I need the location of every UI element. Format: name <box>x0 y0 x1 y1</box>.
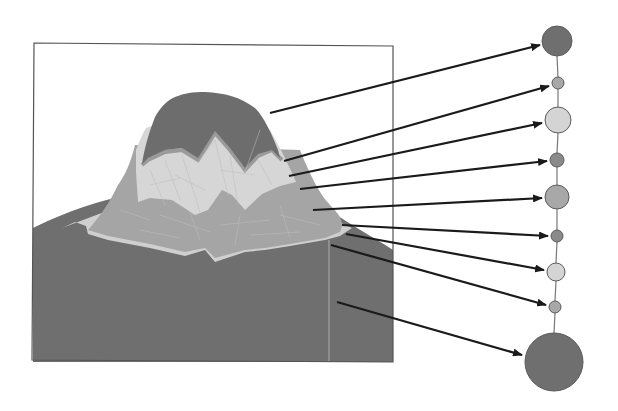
tree-node-n3 <box>545 107 571 133</box>
tree-node-n5 <box>545 185 569 209</box>
tree-edge <box>557 133 558 153</box>
terrain-level-tree-diagram <box>0 0 618 411</box>
tree-node-n8 <box>549 301 561 313</box>
tree-node-n7 <box>547 263 565 281</box>
terrain-panel <box>33 43 393 362</box>
level-tree-nodes <box>525 26 583 391</box>
tree-node-n9 <box>525 333 583 391</box>
tree-edge <box>556 242 557 263</box>
tree-node-n6 <box>551 230 563 242</box>
diagram-canvas <box>0 0 618 411</box>
tree-edge <box>557 56 558 77</box>
tree-edge <box>555 281 556 301</box>
tree-node-n4 <box>550 153 564 167</box>
tree-node-n1 <box>542 26 572 56</box>
tree-node-n2 <box>552 77 564 89</box>
tree-edge <box>554 313 555 333</box>
